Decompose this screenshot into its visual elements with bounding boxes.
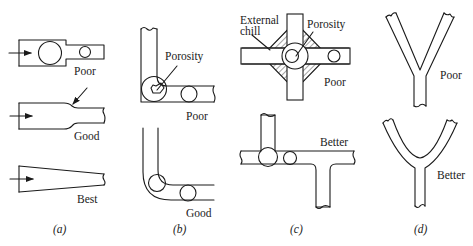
taper-pointer-arrow-icon [73,88,87,104]
panel-b-poor-section: Porosity Poor [141,28,215,123]
panel-c-better-section: Better [240,114,355,209]
panel-c-poor-section: External chill Porosity Poor [240,14,350,100]
panel-b-good-section: Good [143,128,214,219]
label-a-good: Good [74,130,100,142]
caption-c: (c) [290,223,303,236]
caption-b: (b) [173,223,187,236]
label-a-best: Best [77,193,98,205]
label-a-poor: Poor [74,65,96,77]
panel-a-good-section: Good [10,88,105,142]
label-c-chill: chill [240,25,260,37]
panel-d: Poor Better (d) [383,13,465,236]
panel-b: Porosity Poor Good (b) [141,28,215,237]
panel-a-best-section: Best [10,166,105,205]
caption-a: (a) [53,223,67,236]
label-c-porosity: Porosity [307,18,346,31]
label-b-good: Good [186,207,212,219]
label-b-poor: Poor [186,110,208,122]
label-c-better: Better [320,136,348,148]
label-d-better: Better [437,169,465,181]
casting-design-diagram: Poor Good Best (a) [0,0,473,246]
panel-d-better-section: Better [383,119,465,208]
panel-a-poor-section: Poor [9,40,104,77]
caption-d: (d) [414,223,428,236]
label-c-poor: Poor [324,76,346,88]
panel-d-poor-section: Poor [386,13,462,107]
label-d-poor: Poor [440,69,462,81]
panel-c: External chill Porosity Poor Better (c) [240,14,355,236]
label-b-porosity: Porosity [165,50,204,63]
panel-a: Poor Good Best (a) [9,40,105,236]
